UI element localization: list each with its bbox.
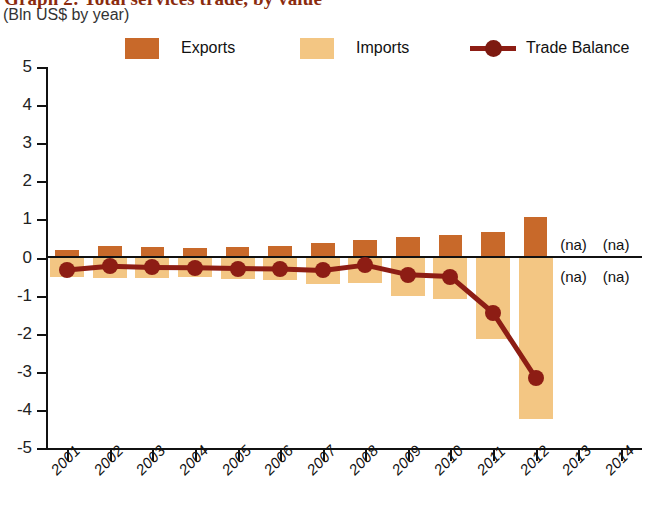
trade-balance-point (357, 257, 373, 273)
trade-balance-point (400, 267, 416, 283)
chart-figure: Graph 2: Total services trade, by value … (0, 0, 645, 510)
trade-balance-point (485, 305, 501, 321)
trade-balance-point (59, 262, 75, 278)
na-annotation: (na) (560, 268, 587, 285)
trade-balance-point (144, 259, 160, 275)
na-annotation: (na) (603, 268, 630, 285)
trade-balance-point (187, 260, 203, 276)
trade-balance-point (272, 261, 288, 277)
trade-balance-line-layer (0, 0, 645, 510)
trade-balance-point (102, 258, 118, 274)
na-annotation: (na) (603, 236, 630, 253)
trade-balance-point (230, 261, 246, 277)
plot-area: 543210-1-2-3-4-5 20012002200320042005200… (0, 0, 645, 510)
na-annotation: (na) (560, 236, 587, 253)
trade-balance-point (442, 269, 458, 285)
trade-balance-point (528, 370, 544, 386)
trade-balance-point (315, 262, 331, 278)
